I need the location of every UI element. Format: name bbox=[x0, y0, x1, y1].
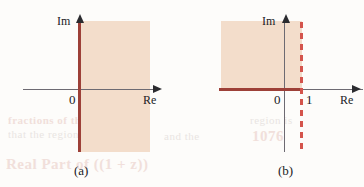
origin-label-a: 0 bbox=[69, 92, 76, 108]
solid-boundary-im-equals-zero-b bbox=[219, 88, 302, 91]
origin-label-b: 0 bbox=[274, 92, 281, 108]
complex-plane-figure: fractions of the same that the region is… bbox=[0, 0, 364, 187]
tick-label-one-b: 1 bbox=[306, 92, 313, 108]
imaginary-axis-b bbox=[284, 22, 285, 152]
real-axis-label-b: Re bbox=[340, 93, 353, 108]
real-axis-arrow-b bbox=[352, 85, 361, 93]
imaginary-axis-label-a: Im bbox=[57, 14, 70, 29]
shaded-region-upper-strip bbox=[221, 21, 302, 89]
real-axis-a bbox=[23, 89, 157, 90]
real-axis-label-a: Re bbox=[143, 93, 156, 108]
solid-boundary-re-equals-zero-a bbox=[78, 22, 81, 152]
panel-b: Im Re 0 1 (b) bbox=[182, 0, 364, 187]
dashed-boundary-re-equals-one-b bbox=[300, 22, 303, 152]
panel-caption-a: (a) bbox=[74, 163, 88, 179]
imaginary-axis-arrow-b bbox=[282, 14, 290, 23]
imaginary-axis-arrow-a bbox=[76, 14, 84, 23]
shaded-region-right-half-plane bbox=[80, 21, 150, 152]
imaginary-axis-label-b: Im bbox=[262, 14, 275, 29]
panel-caption-b: (b) bbox=[278, 163, 293, 179]
real-axis-arrow-a bbox=[153, 85, 162, 93]
panel-a: Im Re 0 (a) bbox=[0, 0, 182, 187]
